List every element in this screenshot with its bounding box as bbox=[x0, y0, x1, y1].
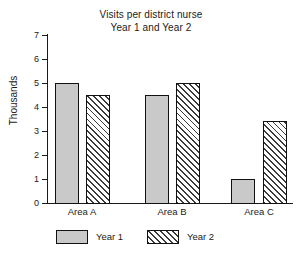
bar-area-b-year-1 bbox=[145, 95, 169, 204]
y-tick-label-7: 7 bbox=[19, 31, 39, 40]
legend-label-year-1: Year 1 bbox=[96, 231, 123, 243]
y-tick-label-2: 2 bbox=[19, 151, 39, 160]
y-axis-label: Thousands bbox=[8, 56, 19, 146]
y-tick-label-4: 4 bbox=[19, 103, 39, 112]
x-category-label-area-c: Area C bbox=[224, 206, 294, 217]
y-tick-mark-4 bbox=[42, 107, 47, 108]
legend-swatch-year-1 bbox=[56, 230, 88, 244]
legend-label-year-2: Year 2 bbox=[187, 231, 214, 243]
y-tick-label-1: 1 bbox=[19, 175, 39, 184]
y-tick-mark-0 bbox=[42, 203, 47, 204]
y-tick-mark-6 bbox=[42, 59, 47, 60]
bar-chart: Visits per district nurse Year 1 and Yea… bbox=[0, 0, 302, 261]
y-tick-label-6: 6 bbox=[19, 55, 39, 64]
y-tick-mark-2 bbox=[42, 155, 47, 156]
chart-title: Visits per district nurse Year 1 and Yea… bbox=[0, 8, 302, 34]
y-tick-label-3: 3 bbox=[19, 127, 39, 136]
y-tick-mark-7 bbox=[42, 35, 47, 36]
x-category-label-area-a: Area A bbox=[47, 206, 117, 217]
y-tick-label-5: 5 bbox=[19, 79, 39, 88]
x-category-label-area-b: Area B bbox=[137, 206, 207, 217]
y-tick-mark-5 bbox=[42, 83, 47, 84]
bar-area-c-year-1 bbox=[231, 179, 255, 204]
chart-legend: Year 1 Year 2 bbox=[0, 228, 302, 250]
bar-area-b-year-2 bbox=[176, 83, 200, 204]
chart-title-line-1: Visits per district nurse bbox=[0, 8, 302, 21]
bar-area-a-year-2 bbox=[86, 95, 110, 204]
bar-area-c-year-2 bbox=[263, 121, 287, 204]
y-axis-line bbox=[47, 34, 48, 203]
bar-area-a-year-1 bbox=[55, 83, 79, 204]
y-tick-label-0: 0 bbox=[19, 199, 39, 208]
chart-title-line-2: Year 1 and Year 2 bbox=[0, 21, 302, 34]
y-tick-mark-3 bbox=[42, 131, 47, 132]
legend-swatch-year-2 bbox=[147, 230, 179, 244]
x-axis-line bbox=[47, 203, 293, 204]
y-tick-mark-1 bbox=[42, 179, 47, 180]
